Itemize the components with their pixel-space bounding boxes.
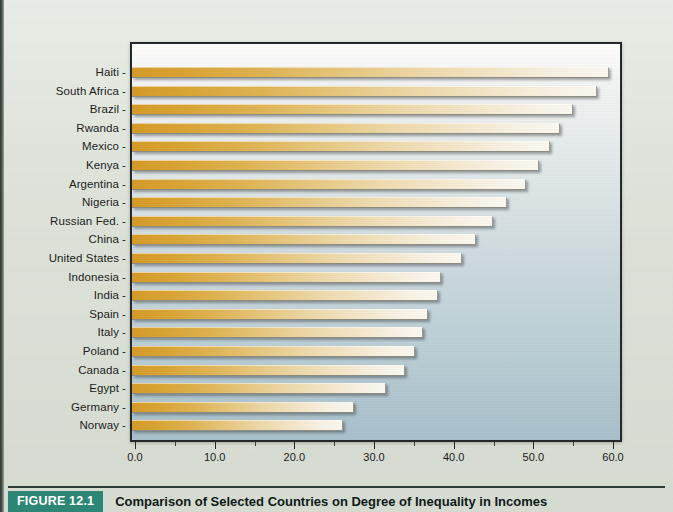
y-label-brazil: Brazil-: [90, 100, 126, 119]
x-tick-label-60-0: 60.0: [602, 451, 623, 463]
bar-norway: [132, 420, 343, 431]
x-tick-label-50-0: 50.0: [523, 451, 544, 463]
y-label-united-states: United States-: [49, 249, 126, 268]
y-label-text: Kenya: [86, 159, 119, 171]
y-label-text: Italy: [97, 326, 119, 338]
y-tick-dash: -: [122, 323, 126, 342]
x-tick-label-30-0: 30.0: [363, 451, 384, 463]
x-tick-label-10-0: 10.0: [204, 451, 225, 463]
y-label-text: Rwanda: [76, 122, 119, 134]
y-label-text: Haiti: [96, 66, 120, 78]
bar-indonesia: [132, 272, 441, 283]
y-tick-dash: -: [122, 63, 126, 82]
y-label-text: Spain: [89, 308, 119, 320]
bar-united-states: [132, 253, 462, 264]
bar-nigeria: [132, 197, 507, 208]
y-tick-dash: -: [122, 175, 126, 194]
x-tick-major: [533, 442, 534, 449]
y-label-rwanda: Rwanda-: [76, 119, 126, 138]
y-tick-dash: -: [122, 379, 126, 398]
y-label-canada: Canada-: [78, 361, 126, 380]
y-label-egypt: Egypt-: [89, 379, 126, 398]
bar-spain: [132, 309, 428, 320]
y-label-italy: Italy-: [97, 323, 126, 342]
x-tick-major: [454, 442, 455, 449]
bar-russian-fed: [132, 216, 493, 227]
x-tick-minor: [334, 442, 335, 446]
book-page-background: Haiti-South Africa-Brazil-Rwanda-Mexico-…: [0, 0, 673, 512]
bar-rwanda: [132, 123, 560, 134]
bar-egypt: [132, 383, 386, 394]
bar-india: [132, 290, 438, 301]
y-tick-dash: -: [122, 100, 126, 119]
x-tick-major: [294, 442, 295, 449]
y-label-indonesia: Indonesia-: [68, 268, 126, 287]
x-tick-minor: [175, 442, 176, 446]
caption-divider-rule: [8, 486, 665, 488]
y-label-text: Nigeria: [82, 196, 119, 208]
y-label-text: Mexico: [82, 140, 119, 152]
y-axis-category-labels: Haiti-South Africa-Brazil-Rwanda-Mexico-…: [0, 42, 130, 442]
figure-caption-bar: FIGURE 12.1 Comparison of Selected Count…: [0, 486, 673, 512]
y-label-text: Brazil: [90, 103, 119, 115]
y-label-text: China: [89, 233, 120, 245]
bar-italy: [132, 327, 423, 338]
y-tick-dash: -: [122, 342, 126, 361]
x-tick-label-40-0: 40.0: [443, 451, 464, 463]
y-label-haiti: Haiti-: [96, 63, 126, 82]
y-tick-dash: -: [122, 249, 126, 268]
x-tick-major: [215, 442, 216, 449]
figure-caption-title: Comparison of Selected Countries on Degr…: [115, 494, 547, 509]
y-label-text: Canada: [78, 364, 119, 376]
caption-content: FIGURE 12.1 Comparison of Selected Count…: [8, 490, 665, 512]
y-tick-dash: -: [122, 398, 126, 417]
y-tick-dash: -: [122, 286, 126, 305]
y-tick-dash: -: [122, 212, 126, 231]
figure-number-badge: FIGURE 12.1: [8, 491, 103, 512]
y-label-text: Germany: [71, 401, 119, 413]
x-tick-label-20-0: 20.0: [284, 451, 305, 463]
y-label-text: Russian Fed.: [50, 215, 119, 227]
x-tick-minor: [573, 442, 574, 446]
y-label-text: Poland: [83, 345, 119, 357]
y-label-argentina: Argentina-: [69, 175, 126, 194]
y-tick-dash: -: [122, 156, 126, 175]
y-label-text: Egypt: [89, 382, 119, 394]
x-tick-major: [135, 442, 136, 449]
y-label-text: Norway: [79, 419, 119, 431]
y-label-text: United States: [49, 252, 119, 264]
y-label-spain: Spain-: [89, 305, 126, 324]
y-tick-dash: -: [122, 230, 126, 249]
bar-canada: [132, 365, 405, 376]
bars-layer: [132, 44, 620, 440]
y-tick-dash: -: [122, 119, 126, 138]
y-tick-dash: -: [122, 193, 126, 212]
bar-haiti: [132, 67, 609, 78]
y-label-south-africa: South Africa-: [56, 82, 126, 101]
y-tick-dash: -: [122, 416, 126, 435]
y-label-norway: Norway-: [79, 416, 126, 435]
bar-mexico: [132, 141, 550, 152]
y-label-russian-fed: Russian Fed.-: [50, 212, 126, 231]
y-label-kenya: Kenya-: [86, 156, 126, 175]
y-tick-dash: -: [122, 305, 126, 324]
bar-south-africa: [132, 86, 597, 97]
x-tick-minor: [494, 442, 495, 446]
y-tick-dash: -: [122, 268, 126, 287]
y-label-mexico: Mexico-: [82, 137, 126, 156]
y-label-poland: Poland-: [83, 342, 126, 361]
x-tick-major: [374, 442, 375, 449]
bar-argentina: [132, 179, 526, 190]
x-tick-minor: [414, 442, 415, 446]
y-tick-dash: -: [122, 361, 126, 380]
y-label-china: China-: [89, 230, 127, 249]
bar-china: [132, 234, 476, 245]
x-tick-label-0-0: 0.0: [127, 451, 142, 463]
y-tick-dash: -: [122, 82, 126, 101]
y-label-germany: Germany-: [71, 398, 126, 417]
y-label-india: India-: [94, 286, 126, 305]
y-label-nigeria: Nigeria-: [82, 193, 126, 212]
plot-frame: [130, 42, 622, 442]
bar-kenya: [132, 160, 539, 171]
y-label-text: India: [94, 289, 119, 301]
